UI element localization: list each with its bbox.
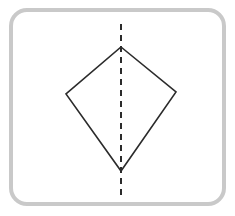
rounded-frame — [11, 10, 224, 204]
figure-canvas — [0, 0, 235, 216]
kite-diagram-svg — [0, 0, 235, 216]
